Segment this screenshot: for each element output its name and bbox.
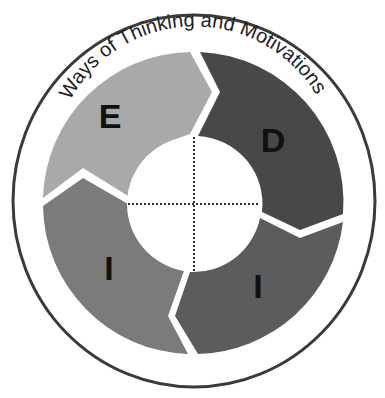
segment-i-left-label: I — [104, 249, 113, 287]
segment-e-label: E — [99, 97, 122, 135]
cycle-diagram: E D I I Ways of Thinking and Motivations — [0, 0, 385, 398]
segment-i-right-label: I — [253, 267, 262, 305]
segment-d-label: D — [261, 121, 286, 159]
